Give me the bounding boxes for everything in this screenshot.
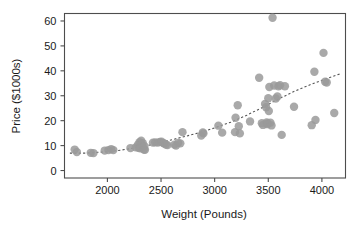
- x-tick-label: 3000: [202, 184, 226, 196]
- data-point: [268, 14, 276, 22]
- scatter-plot-figure: 0102030405060 20002500300035004000 Weigh…: [0, 0, 358, 237]
- y-tick-label: 30: [44, 90, 56, 102]
- data-point: [199, 129, 207, 137]
- data-point: [281, 82, 289, 90]
- data-point: [109, 146, 117, 154]
- data-point: [246, 117, 254, 125]
- data-point: [235, 122, 243, 130]
- y-tick-label: 50: [44, 40, 56, 52]
- x-axis-title: Weight (Pounds): [161, 208, 247, 220]
- data-point: [323, 78, 331, 86]
- x-tick-label: 2000: [95, 184, 119, 196]
- plot-canvas: 0102030405060 20002500300035004000 Weigh…: [0, 0, 358, 237]
- data-point: [319, 49, 327, 57]
- y-tick-label: 40: [44, 65, 56, 77]
- data-point: [218, 128, 226, 136]
- data-point: [236, 129, 244, 137]
- data-point: [290, 103, 298, 111]
- data-point: [267, 121, 275, 129]
- x-tick-label: 4000: [310, 184, 334, 196]
- data-point: [273, 92, 281, 100]
- data-point: [231, 113, 239, 121]
- data-point: [89, 149, 97, 157]
- data-point: [311, 116, 319, 124]
- data-point: [141, 146, 149, 154]
- y-tick-label: 10: [44, 140, 56, 152]
- data-point: [277, 131, 285, 139]
- x-tick-label: 3500: [256, 184, 280, 196]
- data-point: [264, 94, 272, 102]
- y-axis-title: Price ($1000s): [10, 58, 22, 133]
- data-point: [265, 107, 273, 115]
- data-point: [73, 148, 81, 156]
- data-point: [234, 101, 242, 109]
- y-tick-label: 20: [44, 115, 56, 127]
- data-point: [178, 128, 186, 136]
- y-tick-label: 0: [50, 165, 56, 177]
- y-tick-label: 60: [44, 15, 56, 27]
- data-point: [255, 74, 263, 82]
- data-point: [176, 139, 184, 147]
- data-point: [330, 109, 338, 117]
- x-tick-label: 2500: [149, 184, 173, 196]
- data-point: [310, 68, 318, 76]
